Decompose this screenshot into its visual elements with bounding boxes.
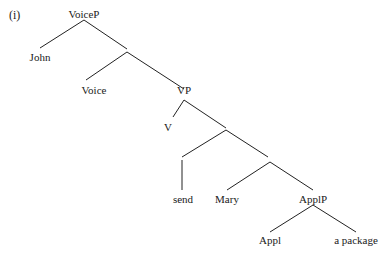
node-mary: Mary: [215, 193, 239, 205]
node-appl: Appl: [259, 234, 281, 246]
node-send: send: [173, 193, 193, 205]
node-john: John: [30, 51, 51, 63]
node-voicep: VoiceP: [69, 8, 100, 20]
node-applp: ApplP: [299, 193, 327, 205]
node-a-package: a package: [334, 234, 378, 246]
tree-branches: [0, 0, 385, 254]
node-v: V: [164, 121, 172, 133]
node-voice: Voice: [82, 84, 107, 96]
node-vp: VP: [177, 84, 191, 96]
